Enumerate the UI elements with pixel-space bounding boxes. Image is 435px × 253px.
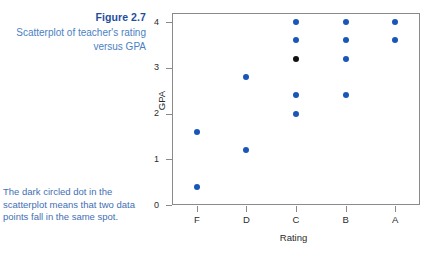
y-axis-title: GPA: [156, 71, 167, 131]
data-point: [194, 129, 200, 135]
y-tick-label: 4: [119, 18, 159, 27]
y-tick-label: 2: [119, 109, 159, 118]
data-point: [343, 19, 349, 25]
y-tick-mark: [166, 205, 172, 206]
y-tick-label: 1: [119, 155, 159, 164]
data-point: [293, 111, 299, 117]
figure-caption: Scatterplot of teacher's rating versus G…: [6, 26, 146, 53]
x-tick-mark: [395, 206, 396, 212]
x-tick-label: D: [236, 214, 256, 225]
x-tick-label: F: [187, 214, 207, 225]
figure-caption-column: Figure 2.7 Scatterplot of teacher's rati…: [0, 0, 152, 253]
x-tick-mark: [197, 206, 198, 212]
data-point-overlap: [293, 56, 299, 62]
data-point: [343, 92, 349, 98]
scatterplot: 01234 FDCBA Rating GPA: [152, 0, 435, 253]
x-tick-mark: [296, 206, 297, 212]
x-tick-mark: [246, 206, 247, 212]
y-tick-mark: [166, 68, 172, 69]
y-tick-label: 0: [119, 201, 159, 210]
data-point: [343, 56, 349, 62]
data-point: [194, 184, 200, 190]
x-tick-label: C: [286, 214, 306, 225]
y-tick-mark: [166, 22, 172, 23]
y-tick-mark: [166, 159, 172, 160]
y-tick-label: 3: [119, 63, 159, 72]
x-tick-label: A: [385, 214, 405, 225]
y-tick-mark: [166, 114, 172, 115]
x-tick-label: B: [336, 214, 356, 225]
x-axis-title: Rating: [152, 232, 435, 243]
x-tick-mark: [346, 206, 347, 212]
